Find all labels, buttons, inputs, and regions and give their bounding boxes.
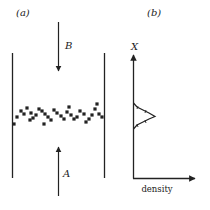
particle: [67, 105, 70, 108]
particle: [43, 112, 46, 115]
particle: [90, 113, 93, 116]
particle: [62, 117, 65, 120]
arrow-a-label: A: [62, 168, 70, 179]
particle: [84, 120, 87, 123]
particle: [19, 109, 22, 112]
particle: [40, 109, 43, 112]
particle: [29, 111, 32, 114]
particle: [72, 117, 75, 120]
particle: [69, 113, 72, 116]
particle: [55, 111, 58, 114]
particle: [28, 118, 31, 121]
particle: [52, 108, 55, 111]
particle: [25, 106, 28, 109]
particle: [49, 118, 52, 121]
particle: [59, 114, 62, 117]
x-axis-label: density: [141, 184, 172, 194]
particle: [78, 109, 81, 112]
particle: [15, 115, 18, 118]
y-axis-label: X: [130, 41, 139, 52]
particle: [93, 107, 96, 110]
panel-a: (a) B A: [12, 7, 104, 196]
particle: [34, 113, 37, 116]
particle: [95, 102, 98, 105]
arrow-b-label: B: [64, 40, 72, 51]
particle: [75, 115, 78, 118]
figure: (a) B A (b) X density: [0, 0, 210, 210]
particle: [82, 112, 85, 115]
particle: [97, 112, 100, 115]
particle: [22, 112, 25, 115]
particle: [100, 115, 103, 118]
particle: [37, 107, 40, 110]
particle-layer: [12, 102, 103, 125]
particle: [12, 122, 15, 125]
particle: [42, 122, 45, 125]
particle: [46, 115, 49, 118]
panel-b-label: (b): [147, 7, 161, 18]
panel-b: (b) X density: [130, 7, 195, 194]
particle: [65, 110, 68, 113]
panel-a-label: (a): [16, 7, 30, 18]
particle: [31, 116, 34, 119]
particle: [87, 117, 90, 120]
density-curve: [134, 103, 156, 129]
